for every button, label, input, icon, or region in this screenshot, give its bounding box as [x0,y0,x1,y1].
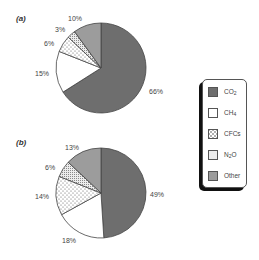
label-a-other: 10% [68,15,82,22]
co2-swatch-icon [208,87,218,97]
legend-item-other: Other [208,171,248,182]
pie-slice-co2 [101,148,146,238]
legend-label-ch4: CH4 [224,110,236,117]
label-b-n2o: 6% [45,164,55,171]
legend-label-n2o: N2O [224,152,237,159]
n2o-swatch-icon [208,150,218,160]
label-b-co2: 49% [150,191,164,198]
legend: CO2 CH4 CFCs N2O Other [202,79,247,188]
legend-label-co2: CO2 [224,89,237,96]
other-swatch-icon [208,171,218,181]
cfcs-swatch-icon [208,129,218,139]
label-a-n2o: 3% [55,26,65,33]
pie-chart-b [56,148,146,238]
legend-label-other: Other [224,173,240,180]
pie-chart-a [56,23,146,113]
label-b-ch4: 18% [62,237,76,244]
label-b-other: 13% [65,144,79,151]
legend-label-cfcs: CFCs [224,131,241,138]
label-a-ch4: 15% [35,70,49,77]
legend-item-co2: CO2 [208,87,248,98]
label-a-co2: 66% [149,88,163,95]
ch4-swatch-icon [208,108,218,118]
legend-item-n2o: N2O [208,150,248,161]
legend-item-cfcs: CFCs [208,129,248,140]
label-a-cfcs: 6% [44,40,54,47]
legend-item-ch4: CH4 [208,108,248,119]
label-b-cfcs: 14% [35,193,49,200]
panel-label-b: (b) [16,139,26,147]
panel-label-a: (a) [16,15,26,23]
